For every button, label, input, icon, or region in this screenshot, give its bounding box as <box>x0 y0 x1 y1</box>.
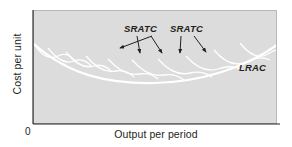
x-axis-label: Output per period <box>86 128 226 140</box>
annotation-arrow-group <box>120 36 206 53</box>
origin-label: 0 <box>25 126 31 137</box>
sratc-label-left: SRATC <box>124 23 157 34</box>
arrow-sratc1-left <box>120 36 152 48</box>
arrow-sratc2-right <box>194 36 206 52</box>
sratc-label-right: SRATC <box>170 23 203 34</box>
arrow-sratc1-right <box>151 36 162 53</box>
lrac-label: LRAC <box>239 62 266 73</box>
sratc-curve-6 <box>132 60 184 80</box>
arrow-sratc1-middle <box>137 36 140 53</box>
cost-curve-figure: SRATC SRATC LRAC Cost per unit Output pe… <box>0 0 292 147</box>
y-axis-label: Cost per unit <box>11 9 23 119</box>
arrow-sratc2-middle <box>180 36 181 53</box>
